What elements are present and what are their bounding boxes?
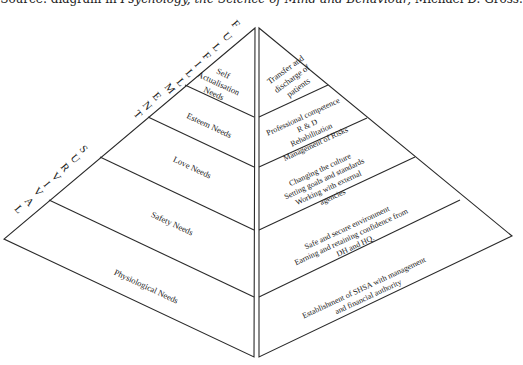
level-label-line: Esteem Needs [185,111,233,141]
left-level-4: Safety Needs [150,209,195,237]
level-label-line: Establishment of SHSA with management [301,255,428,321]
level-label-line: Earning and retaining confidence from [293,206,410,267]
fulfillment-letter: U [220,30,234,44]
left-level-3: Love Needs [172,154,213,180]
survival-letter: L [12,203,26,216]
left-level-1: Self Actualisation Needs [191,59,246,107]
pyramid-diagram: F U L F I L L M E N T S U R V I V A L Se… [0,0,523,365]
right-level-5: Establishment of SHSA with management an… [301,255,432,330]
left-level-5: Physiological Needs [113,267,180,306]
fulfillment-letter: T [131,108,145,121]
right-level-4: Safe and secure environment Earning and … [289,197,414,276]
level-label-line: Safety Needs [150,209,195,237]
level-label-line: Physiological Needs [113,267,180,306]
level-label-line: Love Needs [172,154,213,180]
survival-label: S U R V I V A L [12,143,90,216]
left-level-2: Esteem Needs [185,111,233,141]
fulfillment-letter: F [229,18,242,30]
right-level-1: Transfer and discharge of patients [265,52,319,104]
